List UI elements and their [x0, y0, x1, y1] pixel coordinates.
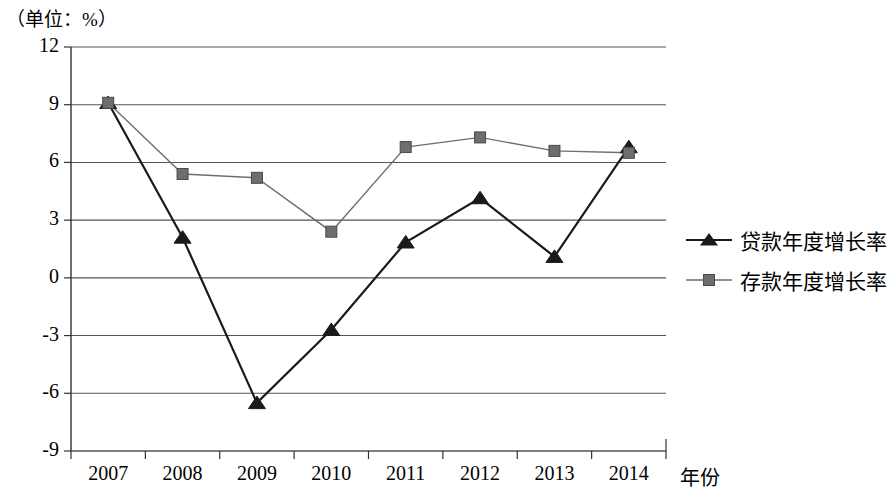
data-point-deposit-2008 [177, 168, 188, 179]
x-axis-tick-label: 2008 [143, 462, 223, 485]
y-axis-tick-label: 9 [9, 92, 59, 115]
x-axis-tick-label: 2009 [217, 462, 297, 485]
x-axis-tick-label: 2010 [291, 462, 371, 485]
data-point-deposit-2012 [475, 132, 486, 143]
data-point-loan-2012 [472, 191, 489, 204]
legend-square-icon [704, 275, 715, 286]
legend-label-1: 贷款年度增长率 [740, 225, 887, 255]
data-point-loan-2010 [323, 323, 340, 336]
data-point-loan-2008 [174, 231, 191, 244]
x-axis-tick-label: 2012 [440, 462, 520, 485]
data-point-deposit-2011 [400, 142, 411, 153]
data-point-deposit-2013 [549, 145, 560, 156]
x-axis-tick-label: 2011 [366, 462, 446, 485]
data-point-deposit-2007 [103, 97, 114, 108]
data-point-deposit-2009 [251, 172, 262, 183]
x-axis-tick-label: 2013 [514, 462, 594, 485]
y-axis-tick-label: -6 [9, 380, 59, 403]
y-axis-tick-label: 12 [9, 34, 59, 57]
legend-label-2: 存款年度增长率 [740, 265, 887, 295]
y-axis-tick-label: -9 [9, 438, 59, 461]
y-axis-tick-label: 3 [9, 207, 59, 230]
y-axis-tick-label: -3 [9, 323, 59, 346]
x-axis-title: 年份 [680, 462, 720, 488]
x-axis-tick-label: 2007 [68, 462, 148, 485]
data-point-deposit-2010 [326, 226, 337, 237]
x-axis-tick-label: 2014 [589, 462, 669, 485]
series-line-2 [108, 103, 629, 232]
y-axis-tick-label: 0 [9, 265, 59, 288]
data-point-loan-2011 [397, 235, 414, 248]
data-point-deposit-2014 [623, 147, 634, 158]
y-axis-tick-label: 6 [9, 149, 59, 172]
